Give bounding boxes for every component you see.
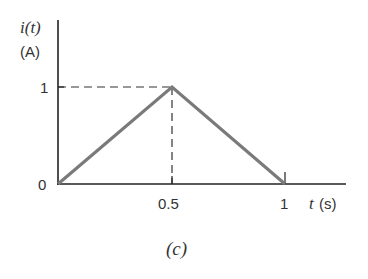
x-tick-label-half: 0.5	[158, 195, 179, 212]
chart: i(t) (A) 1 0 0.5 1 t (s) (c)	[0, 0, 368, 279]
x-axis-name: t	[309, 194, 315, 213]
y-tick-label-1: 1	[40, 79, 48, 96]
y-axis-unit: (A)	[20, 43, 40, 60]
y-axis-name: i(t)	[20, 18, 41, 37]
x-axis-unit: (s)	[319, 195, 337, 212]
figure-caption: (c)	[166, 238, 187, 260]
x-tick-label-1: 1	[280, 195, 288, 212]
origin-label: 0	[38, 176, 46, 193]
